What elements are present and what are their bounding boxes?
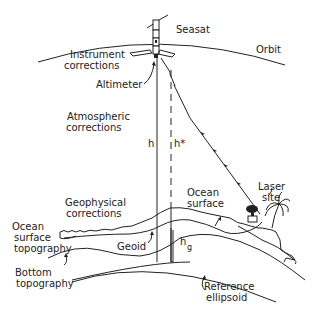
ocean-surface-topography-label-2: surface	[14, 232, 51, 243]
ocean-surface-topography-label: Ocean	[12, 221, 44, 232]
reference-ellipsoid-label: Reference	[204, 281, 254, 292]
hg-subscript: g	[187, 243, 192, 252]
instrument-corrections-label-2: corrections	[64, 60, 119, 71]
geoid-label: Geoid	[117, 241, 146, 252]
bottom-topography-label: Bottom	[15, 267, 52, 278]
atmospheric-corrections-label: Atmospheric	[67, 111, 130, 122]
geophysical-corrections-label-2: corrections	[66, 208, 121, 219]
seasat-satellite-icon	[130, 15, 175, 58]
h-label: h	[148, 138, 154, 149]
atmospheric-corrections-label-2: corrections	[66, 122, 121, 133]
bottom-topography-label-2: topography	[16, 278, 74, 289]
altimeter-arrow	[144, 64, 154, 84]
bottom-topography-line	[48, 234, 305, 280]
satellite-altimetry-diagram: Seasat Orbit Instrument corrections Alti…	[0, 0, 320, 314]
laser-site-label-2: site	[262, 192, 280, 203]
geoid-line	[64, 220, 262, 238]
seasat-label: Seasat	[176, 24, 210, 35]
orbit-label: Orbit	[256, 44, 281, 55]
reference-ellipsoid-label-2: ellipsoid	[206, 292, 247, 303]
ocean-surface-label-2: surface	[187, 198, 224, 209]
laser-site-icon	[246, 205, 258, 222]
hg-label: h	[180, 236, 186, 247]
ocean-surface-topography-label-3: topography	[14, 243, 72, 254]
instrument-corrections-label: Instrument	[70, 49, 125, 60]
geophysical-corrections-label: Geophysical	[65, 197, 126, 208]
ocean-surface-label: Ocean	[187, 187, 219, 198]
altimeter-label: Altimeter	[96, 79, 143, 90]
laser-site-label: Laser	[258, 181, 286, 192]
h-star-label: h*	[174, 138, 185, 149]
